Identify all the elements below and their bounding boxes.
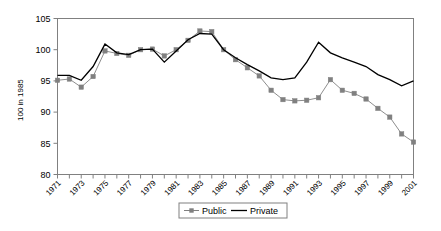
- series-marker-public: [352, 91, 356, 95]
- series-marker-public: [376, 106, 380, 110]
- series-marker-public: [55, 78, 59, 82]
- series-marker-public: [293, 99, 297, 103]
- y-axis-tick-label: 80: [40, 170, 50, 180]
- series-marker-public: [340, 88, 344, 92]
- y-axis-tick-group: 80859095100105: [35, 14, 57, 180]
- series-marker-public: [103, 49, 107, 53]
- series-marker-public: [210, 29, 214, 33]
- chart-legend: PublicPrivate: [179, 203, 287, 218]
- series-line-public: [58, 31, 414, 142]
- x-axis-tick-label: 1991: [281, 178, 300, 197]
- legend-label-public: Public: [202, 206, 227, 216]
- data-series-group: [55, 29, 415, 144]
- series-marker-public: [388, 115, 392, 119]
- x-axis-tick-label: 1975: [91, 178, 110, 197]
- x-axis-tick-label: 1989: [258, 178, 277, 197]
- x-axis-tick-label: 1973: [68, 178, 87, 197]
- x-axis-tick-label: 1977: [115, 178, 134, 197]
- x-axis-tick-label: 1987: [234, 178, 253, 197]
- legend-label-private: Private: [250, 206, 278, 216]
- x-axis-tick-label: 1999: [376, 178, 395, 197]
- x-axis-tick-label: 1997: [352, 178, 371, 197]
- series-marker-public: [328, 77, 332, 81]
- x-axis-tick-group: [58, 175, 414, 179]
- series-marker-public: [411, 140, 415, 144]
- x-axis-tick-label: 1993: [305, 178, 324, 197]
- series-marker-public: [162, 54, 166, 58]
- x-axis-label-group: 1971197319751977197919811983198519871989…: [44, 178, 419, 197]
- x-axis-tick-label: 2001: [400, 178, 419, 197]
- legend-marker-public: [189, 208, 193, 212]
- x-axis-tick-label: 1979: [139, 178, 158, 197]
- series-marker-public: [399, 132, 403, 136]
- y-axis-tick-label: 100: [35, 45, 50, 55]
- x-axis-tick-label: 1983: [186, 178, 205, 197]
- y-axis-tick-label: 95: [40, 76, 50, 86]
- series-marker-public: [245, 66, 249, 70]
- series-marker-public: [316, 96, 320, 100]
- series-marker-public: [305, 98, 309, 102]
- chart-figure: 100 in 1985 80859095100105 1971197319751…: [0, 0, 441, 231]
- series-marker-public: [257, 74, 261, 78]
- y-axis-tick-label: 105: [35, 14, 50, 24]
- x-axis-tick-label: 1981: [163, 178, 182, 197]
- series-marker-public: [364, 97, 368, 101]
- chart-plot-area: 80859095100105 1971197319751977197919811…: [0, 0, 441, 231]
- y-axis-tick-label: 90: [40, 107, 50, 117]
- series-marker-public: [198, 29, 202, 33]
- series-marker-public: [91, 74, 95, 78]
- x-axis-tick-label: 1985: [210, 178, 229, 197]
- series-marker-public: [281, 97, 285, 101]
- y-axis-tick-label: 85: [40, 139, 50, 149]
- series-marker-public: [67, 77, 71, 81]
- x-axis-tick-label: 1971: [44, 178, 63, 197]
- series-marker-public: [269, 88, 273, 92]
- series-marker-public: [79, 85, 83, 89]
- x-axis-tick-label: 1995: [329, 178, 348, 197]
